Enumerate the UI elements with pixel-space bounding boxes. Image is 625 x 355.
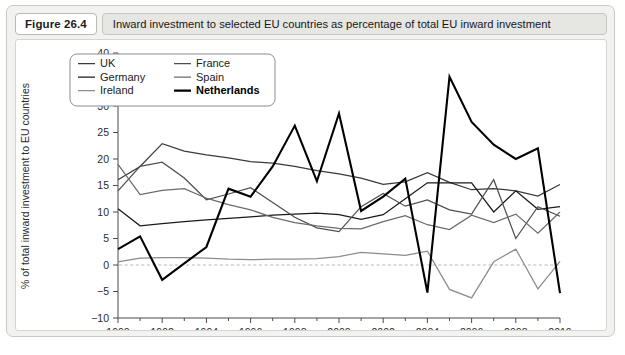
series-line-spain (118, 164, 560, 233)
series-line-netherlands (118, 77, 560, 293)
y-axis-title: % of total inward investment to EU count… (19, 83, 31, 289)
chart-legend: UKGermanyIrelandFranceSpainNetherlands (70, 54, 275, 106)
series-line-ireland (118, 249, 560, 298)
x-tick-label: 1994 (195, 326, 219, 331)
x-tick-label: 2002 (372, 326, 396, 331)
figure-number-badge: Figure 26.4 (15, 13, 97, 35)
legend-label-uk: UK (100, 57, 116, 69)
y-tick-label: 0 (103, 259, 109, 271)
y-tick-label: 20 (97, 153, 109, 165)
x-tick-label: 1992 (151, 326, 175, 331)
legend-label-ireland: Ireland (100, 84, 134, 96)
x-tick-label: 2000 (327, 326, 351, 331)
x-tick-label: 2004 (416, 326, 440, 331)
line-chart: −10−50510152025303540 199019921994199619… (16, 40, 607, 331)
legend-label-spain: Spain (196, 71, 224, 83)
legend-label-germany: Germany (100, 71, 146, 83)
y-tick-label: 5 (103, 232, 109, 244)
x-tick-label: 2010 (548, 326, 572, 331)
y-tick-label: 10 (97, 206, 109, 218)
y-tick-label: 15 (97, 179, 109, 191)
x-axis-ticks: 1990199219941996199820002002200420062008… (106, 318, 572, 331)
chart-plot-panel: −10−50510152025303540 199019921994199619… (15, 39, 607, 331)
x-tick-label: 2008 (504, 326, 528, 331)
x-tick-label: 2006 (460, 326, 484, 331)
figure-header: Figure 26.4 Inward investment to selecte… (15, 13, 607, 35)
y-tick-label: −10 (91, 312, 109, 324)
x-tick-label: 1996 (239, 326, 263, 331)
y-tick-label: 25 (97, 126, 109, 138)
figure-caption: Inward investment to selected EU countri… (102, 13, 607, 35)
x-tick-label: 1998 (283, 326, 307, 331)
figure-frame: Figure 26.4 Inward investment to selecte… (6, 5, 615, 337)
legend-label-france: France (196, 57, 230, 69)
x-tick-label: 1990 (106, 326, 130, 331)
legend-label-netherlands: Netherlands (196, 84, 260, 96)
y-tick-label: −5 (97, 285, 109, 297)
